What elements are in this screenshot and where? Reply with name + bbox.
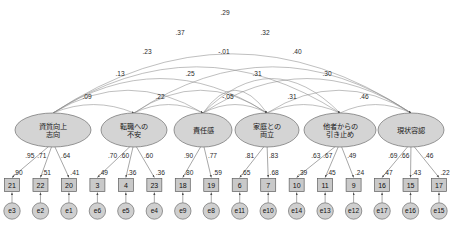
correlation-arc <box>203 90 267 113</box>
squared-multiple-correlation: .43 <box>412 169 421 176</box>
correlation-value: .23 <box>142 48 151 55</box>
observed-variable-label: 9 <box>352 182 356 189</box>
observed-variable-label: 11 <box>321 182 328 189</box>
error-term-label: e11 <box>234 207 245 214</box>
error-term-label: e8 <box>208 207 216 214</box>
correlation-arc <box>53 67 340 113</box>
observed-variable-label: 6 <box>238 182 242 189</box>
squared-multiple-correlation: .41 <box>70 169 79 176</box>
squared-multiple-correlation: .68 <box>270 169 279 176</box>
correlation-arc <box>134 67 411 113</box>
loading-coefficient: .71 <box>37 152 46 159</box>
correlation-value: .09 <box>82 93 91 100</box>
observed-variable-label: 21 <box>8 182 16 189</box>
error-term-label: e3 <box>8 207 16 214</box>
sem-path-diagram: 21e322e220e13e64e523e418e919e86e117e1010… <box>0 0 451 225</box>
nodes-layer: 21e322e220e13e64e523e418e919e86e117e1010… <box>4 113 447 219</box>
squared-multiple-correlation: .51 <box>42 169 51 176</box>
squared-multiple-correlation: .59 <box>213 169 222 176</box>
observed-variable-label: 10 <box>293 182 301 189</box>
observed-variable-label: 22 <box>37 182 45 189</box>
error-term-label: e14 <box>291 207 302 214</box>
error-term-label: e1 <box>65 207 73 214</box>
correlation-value: .25 <box>185 70 194 77</box>
loading-coefficient: .90 <box>184 152 193 159</box>
error-term-label: e4 <box>151 207 159 214</box>
loading-coefficient: .46 <box>424 152 433 159</box>
loading-coefficient: .66 <box>400 152 409 159</box>
correlation-value: .29 <box>220 9 229 16</box>
observed-variable-label: 16 <box>378 182 386 189</box>
coefficient-labels-layer: .29.37.32.23-.01.40.13.25.31.30.09.22-.0… <box>13 9 449 176</box>
loading-coefficient: .81 <box>245 152 254 159</box>
error-term-label: e5 <box>122 207 130 214</box>
correlation-value: .37 <box>175 29 184 36</box>
correlation-arcs-layer <box>53 54 411 113</box>
latent-factor-label: 両立 <box>260 130 274 139</box>
latent-factor-label: 責任感 <box>193 126 214 135</box>
observed-variable-label: 18 <box>179 182 187 189</box>
observed-variable-label: 4 <box>124 182 128 189</box>
loading-coefficient: .77 <box>208 152 217 159</box>
loading-coefficient: .83 <box>269 152 278 159</box>
correlation-arc <box>267 105 340 113</box>
error-term-label: e2 <box>37 207 45 214</box>
correlation-value: -.05 <box>222 93 234 100</box>
latent-factor-label: 現状容認 <box>397 126 425 135</box>
correlation-value: .30 <box>322 70 331 77</box>
correlation-value: .31 <box>252 70 261 77</box>
correlation-arc <box>53 90 203 113</box>
squared-multiple-correlation: .22 <box>440 169 449 176</box>
factor-loading-path <box>340 143 354 178</box>
factor-loading-path <box>203 143 211 178</box>
correlation-arc <box>134 105 203 113</box>
squared-multiple-correlation: .90 <box>13 169 22 176</box>
observed-variable-label: 17 <box>435 182 443 189</box>
error-term-label: e16 <box>405 207 416 214</box>
loading-coefficient: .70 <box>108 152 117 159</box>
factor-loading-path <box>267 143 268 178</box>
error-term-label: e9 <box>179 207 187 214</box>
error-term-label: e6 <box>94 207 102 214</box>
observed-variable-label: 20 <box>65 182 73 189</box>
squared-multiple-correlation: .45 <box>327 169 336 176</box>
loading-coefficient: .64 <box>61 152 70 159</box>
squared-multiple-correlation: .65 <box>241 169 250 176</box>
squared-multiple-correlation: .36 <box>127 169 136 176</box>
correlation-arc <box>53 54 411 113</box>
squared-multiple-correlation: .36 <box>156 169 165 176</box>
loading-coefficient: .49 <box>347 152 356 159</box>
observed-variable-label: 15 <box>407 182 415 189</box>
correlation-value: .31 <box>287 93 296 100</box>
error-term-label: e13 <box>320 207 331 214</box>
correlation-value: -.01 <box>218 48 230 55</box>
observed-variable-label: 7 <box>266 182 270 189</box>
latent-factor-label: 志向 <box>46 130 60 139</box>
loading-coefficient: .60 <box>120 152 129 159</box>
correlation-value: .13 <box>115 70 124 77</box>
error-term-label: e17 <box>377 207 388 214</box>
loading-coefficient: .67 <box>323 152 332 159</box>
correlation-value: .46 <box>359 93 368 100</box>
correlation-arc <box>203 79 411 113</box>
diagram-canvas: 21e322e220e13e64e523e418e919e86e117e1010… <box>0 0 451 225</box>
correlation-value: .32 <box>260 29 269 36</box>
squared-multiple-correlation: .24 <box>355 169 364 176</box>
error-term-label: e10 <box>263 207 274 214</box>
correlation-arc <box>340 105 411 113</box>
error-paths-layer <box>12 193 439 203</box>
squared-multiple-correlation: .80 <box>184 169 193 176</box>
squared-multiple-correlation: .47 <box>383 169 392 176</box>
loading-coefficient: .95 <box>25 152 34 159</box>
loading-coefficient: .63 <box>311 152 320 159</box>
squared-multiple-correlation: .49 <box>99 169 108 176</box>
factor-loading-path <box>53 143 69 178</box>
error-term-label: e12 <box>348 207 359 214</box>
observed-variable-label: 23 <box>150 182 158 189</box>
loading-coefficient: .69 <box>388 152 397 159</box>
observed-variable-label: 19 <box>207 182 215 189</box>
correlation-arc <box>203 105 267 113</box>
latent-factor-label: 不安 <box>127 130 141 139</box>
error-term-label: e15 <box>433 207 444 214</box>
observed-variable-label: 3 <box>95 182 99 189</box>
